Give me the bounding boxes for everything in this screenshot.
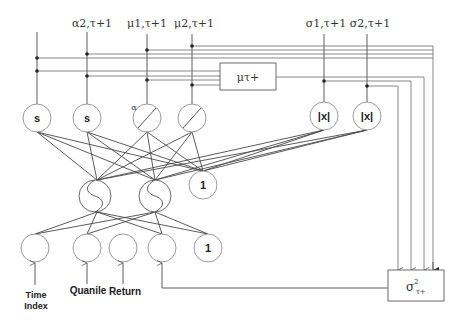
input-node-return (109, 234, 137, 262)
input-label-quantile: Quanile (70, 285, 107, 296)
input-node-quantile (73, 234, 101, 262)
upper-node-s-2: s (73, 104, 101, 132)
svg-text:1: 1 (200, 179, 206, 191)
hidden-to-input-edges (35, 212, 208, 234)
hidden-bias-node: 1 (189, 171, 217, 199)
sigma-box-label: σ (406, 280, 414, 294)
hidden-node-sigmoid-2 (139, 180, 171, 212)
alpha-annotation: α (131, 103, 137, 112)
svg-text:|x|: |x| (361, 110, 373, 122)
network-diagram: α2,τ+1 μ1,τ+1 μ2,τ+1 σ1,τ+1 σ2,τ+1 (0, 0, 464, 321)
sigma-box-sup: 2 (414, 278, 418, 286)
mu-box: μτ+ (220, 63, 276, 90)
input-node-feedback (148, 234, 176, 262)
input-label-time: Time (26, 290, 47, 300)
input-label-mu2: μ2,τ+1 (174, 17, 214, 30)
upper-node-linear-2 (178, 104, 206, 132)
junction-dots (35, 44, 369, 88)
upper-node-s-1: s (23, 104, 51, 132)
mu-box-label: μτ+ (237, 71, 259, 84)
feedback-arrow (162, 263, 388, 288)
input-label-alpha2: α2,τ+1 (72, 17, 112, 30)
upper-node-linear-1: α (131, 103, 161, 132)
input-node-time-index (21, 234, 49, 262)
input-label-mu1: μ1,τ+1 (127, 17, 167, 30)
svg-text:1: 1 (205, 242, 211, 254)
svg-text:|x|: |x| (318, 110, 330, 122)
svg-text:s: s (34, 112, 40, 124)
input-label-index: Index (24, 301, 48, 311)
hidden-node-sigmoid-1 (79, 180, 111, 212)
upper-node-abs-2: |x| (353, 102, 381, 130)
input-label-return: Return (109, 286, 141, 297)
input-bias-node: 1 (194, 234, 222, 262)
sigma-box-sub: τ+ (416, 288, 426, 296)
sigma-box: σ 2 τ+ (388, 270, 444, 301)
upper-node-abs-1: |x| (310, 102, 338, 130)
svg-text:s: s (84, 112, 90, 124)
input-label-sigma1: σ1,τ+1 (306, 17, 346, 30)
input-label-sigma2: σ2,τ+1 (350, 17, 390, 30)
input-lines (37, 32, 367, 104)
